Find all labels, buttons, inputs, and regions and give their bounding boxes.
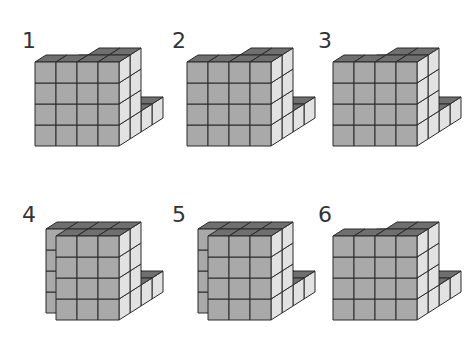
cube-stack — [20, 188, 170, 344]
cube-front-face — [396, 257, 417, 278]
cube-front-face — [250, 257, 271, 278]
cube — [208, 299, 229, 320]
cube — [56, 104, 77, 125]
cube-front-face — [98, 278, 119, 299]
cube-front-face — [250, 83, 271, 104]
cube-front-face — [375, 257, 396, 278]
cube — [229, 125, 250, 146]
cube-front-face — [396, 83, 417, 104]
cube-front-face — [56, 83, 77, 104]
cube-front-face — [208, 83, 229, 104]
cube — [354, 104, 375, 125]
cube-front-face — [208, 62, 229, 83]
cube-front-face — [396, 125, 417, 146]
cube — [77, 278, 98, 299]
cube — [354, 83, 375, 104]
cube — [333, 125, 354, 146]
cube-front-face — [375, 62, 396, 83]
cube-front-face — [229, 83, 250, 104]
cube-front-face — [229, 104, 250, 125]
cube-front-face — [250, 62, 271, 83]
cube-stack — [318, 14, 468, 174]
cube — [98, 55, 130, 83]
cube-front-face — [35, 83, 56, 104]
cube — [56, 83, 77, 104]
cube-front-face — [77, 257, 98, 278]
cube-front-face — [229, 278, 250, 299]
cube — [333, 278, 354, 299]
cube — [77, 257, 98, 278]
cube-front-face — [98, 125, 119, 146]
cube-front-face — [375, 278, 396, 299]
cube-front-face — [375, 236, 396, 257]
cube-front-face — [229, 62, 250, 83]
cube-front-face — [35, 104, 56, 125]
cube — [333, 257, 354, 278]
cube — [250, 55, 282, 83]
cube — [375, 257, 396, 278]
cube-front-face — [333, 278, 354, 299]
cube-front-face — [396, 236, 417, 257]
cube — [375, 278, 396, 299]
cube-front-face — [98, 62, 119, 83]
cube — [229, 257, 250, 278]
cube-front-face — [250, 125, 271, 146]
cube-front-face — [250, 278, 271, 299]
cube-front-face — [98, 299, 119, 320]
cube-front-face — [56, 299, 77, 320]
figure-2: 2 — [172, 14, 322, 174]
cube — [56, 257, 77, 278]
cube-front-face — [375, 299, 396, 320]
cube-front-face — [333, 299, 354, 320]
figure-4: 4 — [20, 188, 170, 344]
cube-front-face — [333, 83, 354, 104]
cube-front-face — [250, 104, 271, 125]
cube-front-face — [354, 299, 375, 320]
cube-front-face — [77, 236, 98, 257]
cube — [208, 257, 229, 278]
cube — [56, 278, 77, 299]
cube — [229, 83, 250, 104]
cube-front-face — [98, 257, 119, 278]
cube-front-face — [187, 125, 208, 146]
cube — [375, 83, 396, 104]
cube-front-face — [354, 236, 375, 257]
cube-front-face — [333, 104, 354, 125]
cube-front-face — [396, 299, 417, 320]
cube-stack — [172, 188, 322, 344]
cube — [98, 229, 130, 257]
cube — [375, 104, 396, 125]
cube — [35, 104, 56, 125]
cube-stack — [20, 14, 170, 174]
cube-front-face — [396, 104, 417, 125]
cube — [354, 299, 375, 320]
cube-stack — [172, 14, 322, 174]
cube-front-face — [35, 125, 56, 146]
cube-front-face — [396, 278, 417, 299]
cube-front-face — [208, 278, 229, 299]
cube — [35, 125, 56, 146]
cube — [35, 83, 56, 104]
cube-front-face — [375, 125, 396, 146]
cube — [208, 104, 229, 125]
cube-front-face — [229, 236, 250, 257]
cube-front-face — [250, 299, 271, 320]
cube — [375, 299, 396, 320]
cube — [56, 125, 77, 146]
cube — [187, 125, 208, 146]
cube — [375, 125, 396, 146]
cube-front-face — [354, 83, 375, 104]
cube-front-face — [333, 125, 354, 146]
cube-front-face — [98, 83, 119, 104]
cube — [354, 278, 375, 299]
cube-front-face — [56, 125, 77, 146]
cube-front-face — [354, 125, 375, 146]
cube-front-face — [98, 104, 119, 125]
cube-front-face — [375, 83, 396, 104]
cube-front-face — [333, 62, 354, 83]
cube-front-face — [354, 104, 375, 125]
cube-front-face — [354, 62, 375, 83]
cube — [56, 299, 77, 320]
cube — [208, 125, 229, 146]
cube-front-face — [56, 62, 77, 83]
